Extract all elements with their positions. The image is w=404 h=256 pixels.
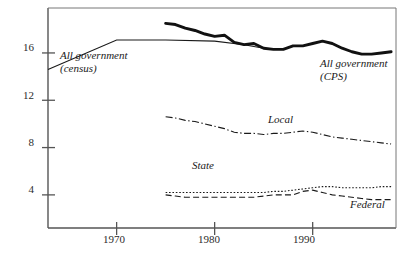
y-tick-label-12: 12 [8, 89, 34, 101]
annotation-all-government-cps-line1: All government [320, 57, 388, 69]
annotation-all-government-cps-line2: (CPS) [320, 70, 347, 82]
series-line-state [166, 187, 391, 193]
annotation-all-government-census-line1: All government [60, 49, 128, 61]
series-line-all-government-cps [166, 23, 391, 54]
annotation-all-government-census-line2: (census) [60, 62, 97, 74]
x-tick-label-1990: 1990 [284, 233, 324, 245]
x-tick-label-1980: 1980 [189, 233, 229, 245]
annotation-state: State [192, 159, 214, 171]
chart-canvas: 16 12 8 4 1970 1980 1990 All government … [0, 0, 404, 256]
y-tick-label-16: 16 [8, 41, 34, 53]
x-tick-label-1970: 1970 [94, 233, 134, 245]
line-chart-plot [0, 0, 404, 256]
y-tick-label-4: 4 [8, 183, 34, 195]
annotation-local: Local [268, 113, 293, 125]
annotation-federal: Federal [350, 198, 385, 210]
y-tick-label-8: 8 [8, 136, 34, 148]
